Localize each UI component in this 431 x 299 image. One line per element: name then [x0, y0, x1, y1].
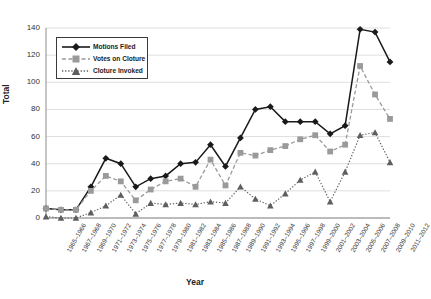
square-data-point-marker — [342, 142, 348, 148]
diamond-data-point-marker — [372, 29, 379, 36]
triangle-data-point-marker — [267, 202, 274, 208]
square-data-point-marker — [193, 184, 199, 190]
triangle-data-point-marker — [147, 200, 154, 206]
y-tick-label: 40 — [14, 159, 40, 168]
diamond-data-point-marker — [102, 155, 109, 162]
legend-swatch-square-icon — [61, 53, 91, 65]
diamond-data-point-marker — [237, 135, 244, 142]
triangle-data-point-marker — [132, 211, 139, 217]
square-data-point-marker — [297, 136, 303, 142]
y-tick-label: 20 — [14, 186, 40, 195]
square-data-point-marker — [43, 206, 49, 212]
y-tick-label: 100 — [14, 77, 40, 86]
square-data-point-marker — [282, 143, 288, 149]
y-axis-title: Total — [1, 84, 11, 104]
square-data-point-marker — [208, 157, 214, 163]
triangle-data-point-marker — [237, 183, 244, 189]
triangle-data-point-marker — [312, 169, 319, 175]
square-data-point-marker — [312, 132, 318, 138]
square-data-point-marker — [357, 63, 363, 69]
square-data-point-marker — [118, 178, 124, 184]
triangle-data-point-marker — [207, 198, 214, 204]
diamond-data-point-marker — [342, 122, 349, 129]
square-data-point-marker — [103, 173, 109, 179]
legend-label: Motions Filed — [93, 41, 136, 53]
square-data-point-marker — [58, 207, 64, 213]
legend-label: Votes on Cloture — [93, 53, 145, 65]
triangle-data-point-marker — [117, 192, 124, 198]
square-data-point-marker — [267, 147, 273, 153]
square-data-point-marker — [223, 183, 229, 189]
series-line — [46, 66, 390, 210]
legend-label: Cloture Invoked — [93, 65, 143, 77]
square-data-point-marker — [238, 150, 244, 156]
triangle-data-point-marker — [297, 177, 304, 183]
series-cloture-invoked — [43, 129, 394, 221]
square-data-point-marker — [372, 92, 378, 98]
y-tick-label: 140 — [14, 23, 40, 32]
square-data-point-marker — [178, 176, 184, 182]
square-data-point-marker — [133, 197, 139, 203]
diamond-data-point-marker — [387, 59, 394, 66]
legend-swatch-diamond-icon — [61, 41, 91, 53]
triangle-data-point-marker — [88, 209, 95, 215]
square-data-point-marker — [387, 116, 393, 122]
triangle-data-point-marker — [387, 159, 394, 165]
diamond-data-point-marker — [357, 26, 364, 33]
y-tick-label: 60 — [14, 132, 40, 141]
square-data-point-marker — [88, 188, 94, 194]
square-data-point-marker — [163, 178, 169, 184]
y-tick-label: 120 — [14, 50, 40, 59]
series-votes-on-cloture — [43, 63, 393, 213]
square-data-point-marker — [252, 153, 258, 159]
square-data-point-marker — [327, 149, 333, 155]
triangle-data-point-marker — [43, 213, 50, 219]
y-tick-label: 80 — [14, 104, 40, 113]
diamond-data-point-marker — [252, 106, 259, 113]
legend-swatch-triangle-icon — [61, 65, 91, 77]
diamond-data-point-marker — [147, 175, 154, 182]
x-axis-title: Year — [186, 277, 204, 287]
triangle-data-point-marker — [327, 198, 334, 204]
square-data-point-marker — [73, 207, 79, 213]
square-data-point-marker — [148, 187, 154, 193]
diamond-data-point-marker — [297, 118, 304, 125]
triangle-data-point-marker — [342, 169, 349, 175]
triangle-data-point-marker — [372, 129, 379, 135]
y-tick-label: 0 — [14, 213, 40, 222]
legend: Motions Filed Votes on Cloture Cloture I… — [56, 37, 148, 79]
